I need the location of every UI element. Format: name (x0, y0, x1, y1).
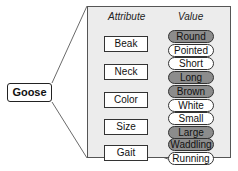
value-white: White (168, 99, 214, 112)
attribute-header: Attribute (108, 11, 145, 22)
value-running: Running (168, 152, 214, 165)
attribute-beak: Beak (104, 36, 148, 52)
attribute-gait: Gait (104, 145, 148, 161)
value-brown: Brown (168, 85, 214, 98)
value-short: Short (168, 57, 214, 70)
value-long: Long (168, 71, 214, 84)
value-header: Value (178, 11, 203, 22)
value-waddling: Waddling (168, 138, 214, 151)
attribute-neck: Neck (104, 64, 148, 80)
attribute-size: Size (104, 119, 148, 135)
value-round: Round (168, 30, 214, 43)
value-pointed: Pointed (168, 44, 214, 57)
attribute-color: Color (104, 92, 148, 108)
root-node-goose: Goose (7, 83, 52, 102)
value-small: Small (168, 112, 214, 125)
